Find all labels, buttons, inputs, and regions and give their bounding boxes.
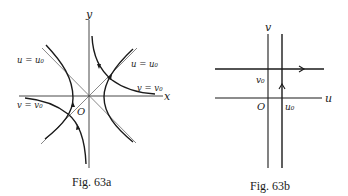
x-axis-label: x [164,90,171,103]
hyperbola-u-left-branch [45,45,73,139]
fig-63a [19,20,163,168]
curve-label-u-left: u = u₀ [17,55,44,65]
figure-caption-63a: Fig. 63a [72,175,112,189]
hyperbola-u-right-branch [104,49,133,142]
curve-label-u-right: u = u₀ [131,59,158,69]
curve-label-v-right: v = v₀ [137,83,163,93]
v-axis-label: v [265,21,272,34]
figure-canvas: y x O u = u₀ u = u₀ v = v₀ v = v₀ Fig. 6… [0,0,348,196]
origin-label: O [257,101,265,112]
fig-63b [215,34,324,168]
u0-label: u₀ [285,102,295,112]
curve-label-v-left: v = v₀ [17,100,43,110]
figure-caption-63b: Fig. 63b [250,179,290,193]
u-axis-label: u [325,92,332,105]
y-axis-label: y [85,8,93,21]
origin-label: O [77,106,85,117]
v0-label: v₀ [256,75,265,85]
